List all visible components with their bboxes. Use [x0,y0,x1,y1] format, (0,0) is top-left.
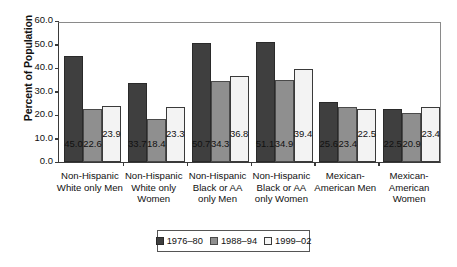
bar-group-bars-5: 22.520.923.4 [383,23,440,162]
bar-2-0[interactable]: 50.7 [192,43,211,162]
y-axis-tick-mark-6 [55,21,59,23]
bar-group-0: 45.022.623.9 [64,23,121,162]
y-axis-tick-label-1: 10.0 [35,132,54,143]
bar-group-bars-1: 33.718.423.3 [128,23,185,162]
x-axis-category-label-2-line-0: Non-Hispanic [182,170,254,182]
bar-group-3: 51.134.939.4 [256,23,313,162]
legend-item-2[interactable]: 1999–02 [264,236,311,246]
bar-5-2[interactable]: 23.4 [421,107,440,162]
y-axis-title: Percent of Population [22,0,34,148]
bar-1-2[interactable]: 23.3 [166,107,185,162]
bar-value-label-4-0: 25.6 [320,138,339,149]
x-axis-category-label-0-line-0: Non-Hispanic [54,170,126,182]
y-axis-tick-mark-4 [55,68,59,70]
bar-1-1[interactable]: 18.4 [147,119,166,162]
y-axis-tick-label-0: 0.0 [40,155,53,166]
x-axis-category-label-1-line-0: Non-Hispanic [118,170,190,182]
bar-4-0[interactable]: 25.6 [319,102,338,162]
x-axis-category-label-2: Non-HispanicBlack or AAonly Men [182,170,254,205]
x-axis-category-label-5: Mexican-AmericanWomen [373,170,445,205]
bar-3-1[interactable]: 34.9 [275,80,294,162]
legend-item-0[interactable]: 1976–80 [156,236,203,246]
y-axis-tick-label-6: 60.0 [35,14,54,25]
legend-item-1[interactable]: 1988–94 [210,236,257,246]
x-axis-category-label-1-line-2: Women [118,193,190,205]
bar-group-5: 22.520.923.4 [383,23,440,162]
x-axis-tick-4 [314,162,316,166]
x-axis-category-label-3: Non-HispanicBlack or AAonly Women [246,170,318,205]
x-axis-category-label-4-line-0: Mexican- [309,170,381,182]
x-axis-category-label-2-line-2: only Men [182,193,254,205]
bar-group-2: 50.734.336.8 [192,23,249,162]
x-axis-category-label-1-line-1: White only [118,182,190,194]
y-axis-tick-label-3: 30.0 [35,85,54,96]
bar-3-2[interactable]: 39.4 [294,69,313,162]
x-axis-category-label-5-line-1: American [373,182,445,194]
bar-0-1[interactable]: 22.6 [83,109,102,162]
bar-value-label-3-0: 51.1 [256,138,275,149]
bar-group-bars-3: 51.134.939.4 [256,23,313,162]
y-axis-tick-label-4: 40.0 [35,61,54,72]
bar-value-label-3-1: 34.9 [275,138,294,149]
legend-swatch-icon-2 [264,237,272,245]
bar-group-bars-2: 50.734.336.8 [192,23,249,162]
legend-swatch-icon-0 [156,237,164,245]
x-axis-tick-2 [187,162,189,166]
bar-value-label-5-1: 20.9 [402,138,421,149]
bar-value-label-5-0: 22.5 [383,138,402,149]
bar-value-label-2-0: 50.7 [192,138,211,149]
plot-area: 0.010.020.030.040.050.060.045.022.623.93… [58,22,441,163]
x-axis-category-label-3-line-0: Non-Hispanic [246,170,318,182]
bar-group-bars-0: 45.022.623.9 [64,23,121,162]
bar-value-label-0-1: 22.6 [83,138,102,149]
y-axis-tick-label-5: 50.0 [35,38,54,49]
bar-4-2[interactable]: 22.5 [357,109,376,162]
y-axis-tick-label-2: 20.0 [35,108,54,119]
bar-value-label-2-2: 36.8 [230,128,249,139]
x-axis-category-label-1: Non-HispanicWhite onlyWomen [118,170,190,205]
legend-swatch-icon-1 [210,237,218,245]
bar-chart: Percent of Population 0.010.020.030.040.… [0,0,457,267]
legend-label-2: 1999–02 [275,236,311,246]
x-axis-category-label-2-line-1: Black or AA [182,182,254,194]
bar-group-bars-4: 25.623.422.5 [319,23,376,162]
x-axis-category-label-5-line-2: Women [373,193,445,205]
x-axis-category-label-4: Mexican-American Men [309,170,381,193]
bar-0-2[interactable]: 23.9 [102,106,121,162]
legend-label-0: 1976–80 [167,236,203,246]
x-axis-category-label-5-line-0: Mexican- [373,170,445,182]
chart-legend: 1976–80 1988–94 1999–02 [157,230,310,252]
y-axis-tick-mark-3 [55,91,59,93]
legend-label-1: 1988–94 [221,236,257,246]
y-axis-tick-mark-5 [55,44,59,46]
bar-5-0[interactable]: 22.5 [383,109,402,162]
bar-value-label-1-1: 18.4 [147,138,166,149]
bar-2-2[interactable]: 36.8 [230,76,249,162]
x-axis-category-label-4-line-1: American Men [309,182,381,194]
bar-group-1: 33.718.423.3 [128,23,185,162]
bar-value-label-3-2: 39.4 [294,128,313,139]
x-axis-tick-5 [378,162,380,166]
bar-group-4: 25.623.422.5 [319,23,376,162]
x-axis-category-label-3-line-1: Black or AA [246,182,318,194]
x-axis-tick-1 [123,162,125,166]
bar-value-label-1-0: 33.7 [128,138,147,149]
bar-value-label-0-0: 45.0 [64,138,83,149]
x-axis-category-label-0-line-1: White only Men [54,182,126,194]
y-axis-tick-mark-2 [55,115,59,117]
bar-value-label-0-2: 23.9 [102,128,121,139]
bar-5-1[interactable]: 20.9 [402,113,421,162]
bar-0-0[interactable]: 45.0 [64,56,83,162]
bar-1-0[interactable]: 33.7 [128,83,147,162]
y-axis-tick-mark-1 [55,138,59,140]
x-axis-category-label-0: Non-HispanicWhite only Men [54,170,126,193]
bar-value-label-1-2: 23.3 [166,128,185,139]
bar-value-label-4-2: 22.5 [358,128,377,139]
y-axis-tick-mark-0 [55,162,59,164]
bar-2-1[interactable]: 34.3 [211,81,230,162]
x-axis-tick-3 [251,162,253,166]
bar-3-0[interactable]: 51.1 [256,42,275,162]
x-axis-category-label-3-line-2: only Women [246,193,318,205]
bar-4-1[interactable]: 23.4 [338,107,357,162]
bar-value-label-2-1: 34.3 [211,138,230,149]
